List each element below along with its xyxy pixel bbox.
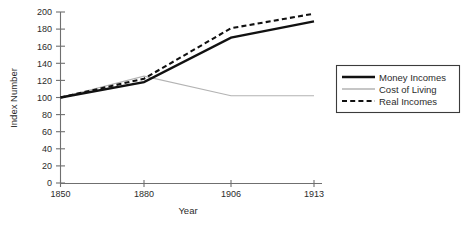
- y-tick-label-80: 80: [42, 110, 52, 120]
- series-line-real-incomes: [61, 14, 315, 98]
- legend-label-cost-of-living: Cost of Living: [379, 84, 437, 95]
- series-line-cost-of-living: [61, 76, 315, 97]
- chart-legend: Money Incomes Cost of Living Real Income…: [337, 66, 460, 113]
- x-tick-label-1913: 1913: [304, 189, 324, 199]
- x-tick-label-1906: 1906: [221, 189, 241, 199]
- y-tick-label-20: 20: [42, 161, 52, 171]
- y-tick-label-140: 140: [37, 59, 52, 69]
- y-tick-label-200: 200: [37, 7, 52, 17]
- y-tick-label-160: 160: [37, 42, 52, 52]
- y-tick-label-60: 60: [42, 127, 52, 137]
- legend-label-money-incomes: Money Incomes: [379, 72, 446, 83]
- y-axis: 200 180 160 140 120 100 80 60 40 20 0 In…: [8, 7, 65, 188]
- x-axis-title: Year: [178, 205, 197, 216]
- x-tick-label-1880: 1880: [134, 189, 154, 199]
- legend-label-real-incomes: Real Incomes: [379, 96, 437, 107]
- y-tick-label-100: 100: [37, 93, 52, 103]
- line-chart-canvas: 200 180 160 140 120 100 80 60 40 20 0 In…: [0, 0, 465, 225]
- y-tick-label-40: 40: [42, 144, 52, 154]
- y-tick-label-180: 180: [37, 24, 52, 34]
- x-axis: 1850 1880 1906 1913 Year: [50, 180, 324, 216]
- series-group: [61, 14, 315, 98]
- x-tick-label-1850: 1850: [50, 189, 70, 199]
- y-tick-label-0: 0: [47, 178, 52, 188]
- y-axis-title: Index Number: [8, 68, 19, 128]
- y-tick-label-120: 120: [37, 76, 52, 86]
- chart-figure: 200 180 160 140 120 100 80 60 40 20 0 In…: [0, 0, 465, 225]
